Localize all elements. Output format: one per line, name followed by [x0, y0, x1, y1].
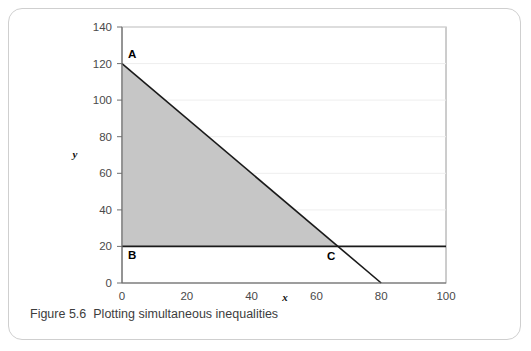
y-tick-label-40: 40 — [99, 204, 112, 216]
chart-svg: 140 120 100 80 60 40 20 0 0 20 40 60 80 … — [0, 0, 531, 351]
y-tick-label-80: 80 — [99, 131, 112, 143]
figure-caption-number: Figure 5.6 — [30, 307, 86, 321]
x-tick-label-20: 20 — [180, 290, 193, 302]
y-tick-label-0: 0 — [106, 277, 112, 289]
x-axis-title: x — [281, 291, 288, 303]
x-tick-label-100: 100 — [436, 290, 455, 302]
x-tick-label-40: 40 — [245, 290, 258, 302]
chart-plot-region: 140 120 100 80 60 40 20 0 0 20 40 60 80 … — [0, 0, 531, 351]
vertex-label-b: B — [128, 249, 136, 261]
y-tick-label-20: 20 — [99, 240, 112, 252]
x-tick-label-80: 80 — [375, 290, 388, 302]
y-axis-ticks — [117, 27, 122, 283]
y-axis-title: y — [71, 148, 78, 160]
x-tick-label-0: 0 — [119, 290, 125, 302]
figure-caption-text: Plotting simultaneous inequalities — [93, 307, 278, 321]
y-tick-label-100: 100 — [93, 94, 112, 106]
y-tick-label-140: 140 — [93, 21, 112, 33]
y-tick-label-120: 120 — [93, 58, 112, 70]
vertex-label-a: A — [128, 48, 136, 60]
vertex-label-c: C — [327, 250, 335, 262]
x-tick-label-60: 60 — [310, 290, 323, 302]
figure-caption: Figure 5.6Plotting simultaneous inequali… — [30, 307, 278, 321]
y-tick-label-60: 60 — [99, 167, 112, 179]
